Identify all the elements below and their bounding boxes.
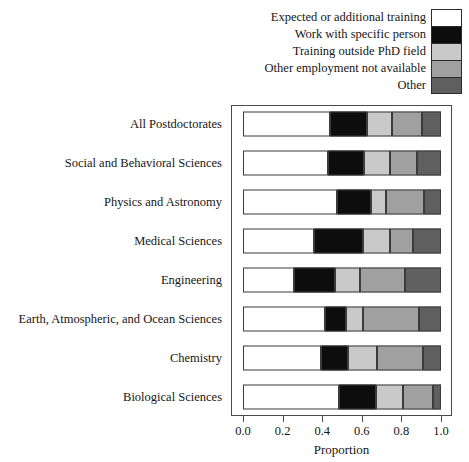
legend-swatch (431, 26, 462, 43)
bar-segment (294, 267, 335, 292)
bar-segment (371, 190, 386, 215)
bar-segment (390, 229, 414, 254)
x-axis: Proportion 0.00.20.40.60.81.0 (231, 416, 452, 462)
legend-item-label: Training outside PhD field (293, 43, 431, 60)
x-axis-tick (401, 416, 402, 422)
chart-legend: Expected or additional trainingWork with… (230, 9, 462, 94)
category-axis-labels: All PostdoctoratesSocial and Behavioral … (0, 105, 227, 416)
bar-segment (337, 190, 371, 215)
bar-segment (243, 151, 328, 176)
x-axis-tick (322, 416, 323, 422)
bar-segment (314, 229, 363, 254)
x-axis-tick-label: 1.0 (433, 424, 449, 439)
bar-segment (390, 151, 418, 176)
bar-segment (243, 384, 339, 409)
stacked-bar (243, 306, 441, 331)
legend-swatch (431, 60, 462, 77)
stacked-bar (243, 112, 441, 137)
x-axis-tick (362, 416, 363, 422)
bar-segment (413, 229, 441, 254)
bar-segment (405, 267, 441, 292)
bar-segment (417, 151, 441, 176)
bar-segment (321, 345, 348, 370)
bar-segment (243, 267, 294, 292)
bar-segment (339, 384, 376, 409)
legend-item: Expected or additional training (230, 9, 462, 26)
bar-segment (363, 229, 390, 254)
x-axis-tick (283, 416, 284, 422)
legend-item: Other employment not available (230, 60, 462, 77)
category-label: Medical Sciences (134, 234, 222, 248)
bar-segment (360, 267, 405, 292)
legend-item: Other (230, 77, 462, 94)
x-axis-title: Proportion (231, 442, 452, 458)
bar-segment (325, 306, 346, 331)
bar-segment (392, 112, 422, 137)
stacked-bar (243, 190, 441, 215)
category-label: Social and Behavioral Sciences (65, 156, 222, 170)
stacked-bar (243, 345, 441, 370)
legend-swatch (431, 9, 462, 26)
x-axis-tick-label: 0.4 (314, 424, 330, 439)
bar-segment (364, 151, 390, 176)
bar-segment (422, 112, 441, 137)
legend-item-label: Work with specific person (295, 26, 431, 43)
bar-segment (243, 112, 330, 137)
bar-segment (243, 345, 321, 370)
x-axis-tick (243, 416, 244, 422)
legend-item: Training outside PhD field (230, 43, 462, 60)
bar-segment (386, 190, 425, 215)
bar-segment (363, 306, 419, 331)
bar-segment (433, 384, 441, 409)
bar-segment (335, 267, 360, 292)
category-label: All Postdoctorates (130, 117, 222, 131)
stacked-bar-chart-figure: Expected or additional trainingWork with… (0, 0, 469, 462)
bar-segment (328, 151, 364, 176)
stacked-bar (243, 267, 441, 292)
x-axis-tick (441, 416, 442, 422)
legend-item: Work with specific person (230, 26, 462, 43)
legend-item-label: Other (398, 77, 431, 94)
category-label: Physics and Astronomy (104, 195, 222, 209)
bar-segment (423, 345, 441, 370)
bar-segment (348, 345, 377, 370)
category-label: Earth, Atmospheric, and Ocean Sciences (19, 312, 222, 326)
x-axis-tick-label: 0.8 (394, 424, 410, 439)
legend-swatch (431, 77, 462, 94)
bar-segment (377, 345, 423, 370)
bar-segment (243, 190, 337, 215)
bar-segment (419, 306, 441, 331)
stacked-bar (243, 384, 441, 409)
bar-segment (367, 112, 392, 137)
x-axis-tick-label: 0.6 (354, 424, 370, 439)
x-axis-tick-label: 0.0 (235, 424, 251, 439)
bar-segment (346, 306, 363, 331)
bar-segment (243, 229, 314, 254)
bar-segment (376, 384, 403, 409)
bar-series-container (231, 105, 452, 416)
legend-swatch (431, 43, 462, 60)
category-label: Biological Sciences (123, 390, 222, 404)
bar-segment (403, 384, 433, 409)
bar-segment (424, 190, 441, 215)
bar-segment (243, 306, 325, 331)
category-label: Chemistry (170, 351, 222, 365)
stacked-bar (243, 151, 441, 176)
category-label: Engineering (161, 273, 222, 287)
stacked-bar (243, 229, 441, 254)
x-axis-tick-label: 0.2 (275, 424, 291, 439)
legend-item-label: Other employment not available (265, 60, 431, 77)
bar-segment (330, 112, 367, 137)
legend-item-label: Expected or additional training (271, 9, 431, 26)
